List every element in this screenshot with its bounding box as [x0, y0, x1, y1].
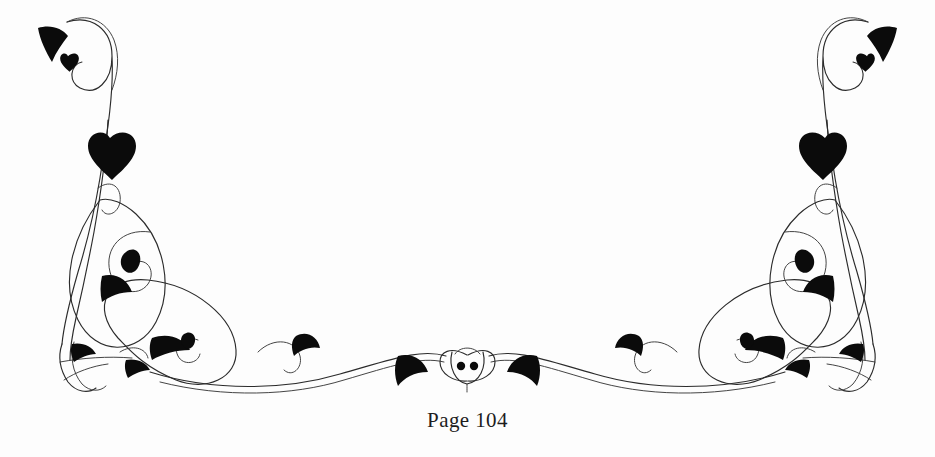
- right-leaf-mid-heart: [799, 132, 847, 180]
- ornament-svg: [0, 0, 935, 457]
- right-leaf-tail-upper: [839, 343, 864, 362]
- right-ribbon-cross: [803, 357, 875, 362]
- right-leaf-bulb-drop: [795, 250, 815, 273]
- page-canvas: Page 104: [0, 0, 935, 457]
- left-leaf-tendril-drop: [292, 334, 320, 356]
- left-leaf-tail-upper: [71, 343, 96, 362]
- right-leaf-center-side: [507, 355, 540, 386]
- page-number-label: Page 104: [427, 408, 508, 433]
- center-medallion-bowl: [451, 352, 484, 384]
- right-tail-curl: [787, 348, 815, 358]
- page-number-row: Page 104: [0, 408, 935, 433]
- center-medallion-dot-right: [470, 362, 478, 370]
- right-leaf-top-heart: [856, 53, 875, 71]
- center-medallion-dot-left: [457, 362, 465, 370]
- left-leaf-top-heart: [60, 53, 79, 71]
- ornament-left-half: [38, 18, 446, 393]
- right-bulb-loop: [770, 199, 866, 347]
- right-leaf-bulb-arrow: [803, 275, 835, 302]
- right-leaf-tendril-drop: [615, 334, 643, 356]
- left-leaf-tail-lower: [125, 359, 150, 378]
- ornament-right-half: [489, 18, 897, 393]
- left-bulb-loop: [69, 199, 165, 347]
- left-leaf-bulb-drop: [121, 250, 141, 273]
- left-leaf-mid-heart: [88, 132, 136, 180]
- right-lower-loop: [699, 280, 831, 385]
- left-ribbon-cross: [60, 357, 132, 362]
- right-ribbon-edge: [827, 364, 871, 380]
- right-leaf-tail-lower: [785, 359, 810, 378]
- left-leaf-center-side: [395, 355, 428, 386]
- ornament-center-medallion: [440, 348, 495, 392]
- left-leaf-bulb-arrow: [101, 275, 133, 302]
- left-tail-curl: [120, 348, 148, 358]
- ornament-flourish: [0, 0, 935, 457]
- left-lower-loop: [104, 280, 236, 385]
- left-ribbon-edge: [64, 364, 108, 380]
